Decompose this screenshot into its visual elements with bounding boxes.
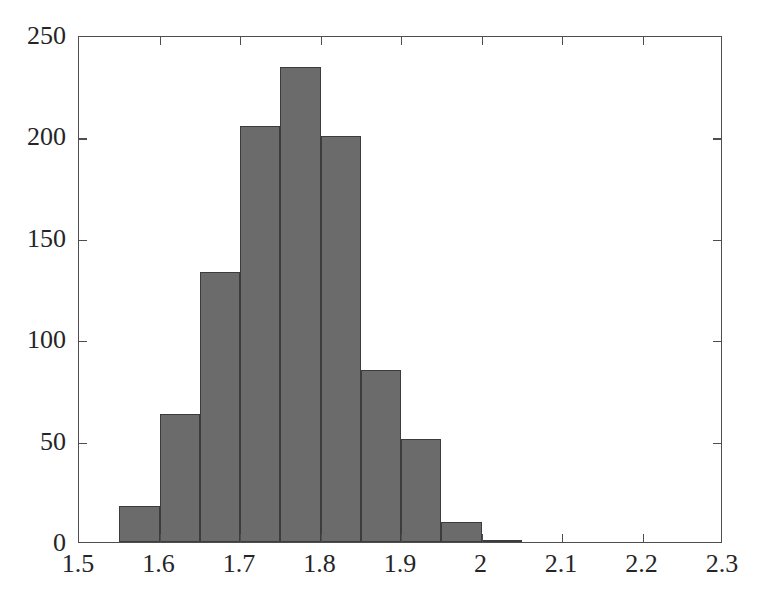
y-axis-tick-labels: 050100150200250 — [0, 0, 764, 602]
y-tick-label: 100 — [0, 327, 66, 353]
histogram-figure: 1.51.61.71.81.922.12.22.3 05010015020025… — [0, 0, 764, 602]
y-tick-label: 50 — [0, 429, 66, 455]
y-tick-label: 250 — [0, 23, 66, 49]
y-tick-label: 0 — [0, 530, 66, 556]
y-tick-label: 200 — [0, 124, 66, 150]
y-tick-label: 150 — [0, 226, 66, 252]
